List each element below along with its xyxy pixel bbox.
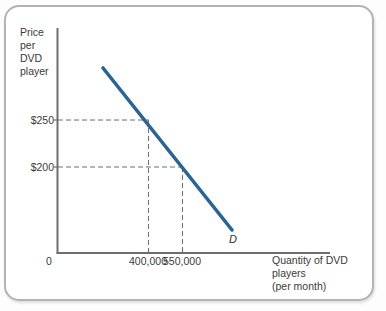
y-axis-label-line-1: Price [20,26,44,38]
y-tick-label-200: $200 [10,161,54,174]
chart-screenshot: PriceperDVDplayer Quantity of DVDplayers… [0,0,386,311]
demand-curve-label: D [229,233,237,246]
y-axis-label-line-2: per [20,39,35,51]
x-axis-label-line-2: players [272,267,306,279]
y-axis-label: PriceperDVDplayer [20,26,49,78]
demand-curve-line [103,68,232,230]
x-axis-label-line-1: Quantity of DVD [272,254,348,266]
x-axis-label: Quantity of DVDplayers(per month) [272,254,348,293]
y-tick-label-250: $250 [10,114,54,127]
x-axis-label-line-3: (per month) [272,280,326,292]
y-axis-label-line-3: DVD [20,52,42,64]
x-origin-label: 0 [19,255,79,268]
x-tick-label-550000: 550,000 [152,255,212,268]
y-axis-label-line-4: player [20,65,49,77]
